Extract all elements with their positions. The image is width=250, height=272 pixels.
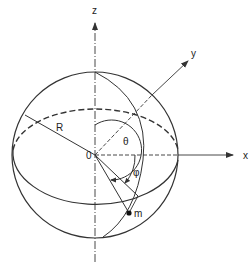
z-axis-label: z	[92, 5, 97, 16]
y-axis	[152, 61, 188, 95]
x-axis-label: x	[243, 150, 248, 161]
point-m-label: m	[134, 208, 142, 219]
point-m	[126, 210, 131, 215]
equator-front	[13, 150, 178, 204]
radius-line	[25, 115, 95, 155]
sphere-diagram: z y x 0 R θ φ m	[0, 0, 250, 272]
radius-label: R	[56, 122, 63, 133]
equator-back	[13, 109, 178, 150]
phi-label: φ	[133, 167, 140, 178]
theta-label: θ	[123, 136, 129, 147]
origin-label: 0	[86, 150, 92, 161]
y-axis-label: y	[191, 48, 196, 59]
line-to-projection	[95, 155, 138, 196]
